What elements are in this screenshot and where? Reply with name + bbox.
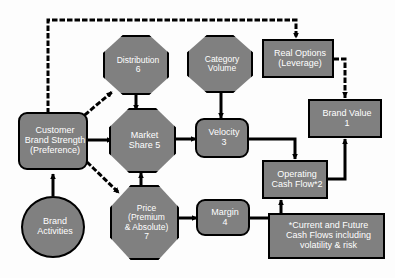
node-price-label: Price(Premium& Absolute)7 <box>110 204 179 241</box>
node-real-options-label: Real Options(Leverage) <box>264 49 332 68</box>
node-brand-value[interactable]: Brand Value1 <box>308 99 382 138</box>
node-brand-activities-label: BrandActivities <box>23 217 83 236</box>
node-customer-brand-strength-label: CustomerBrand Strength(Preference) <box>20 126 86 155</box>
node-brand-value-label: Brand Value1 <box>310 109 380 128</box>
connector-real-options-to-brand-value <box>335 59 345 97</box>
node-distribution-label: Distribution6 <box>103 56 169 74</box>
diagram-canvas: CustomerBrand Strength(Preference) Brand… <box>0 0 395 278</box>
node-footnote: *Current and FutureCash Flows includingv… <box>268 213 385 259</box>
node-price[interactable]: Price(Premium& Absolute)7 <box>110 185 179 260</box>
node-velocity[interactable]: Velocity3 <box>195 118 249 158</box>
node-distribution[interactable]: Distribution6 <box>103 35 169 95</box>
node-operating-cash-flow[interactable]: OperatingCash Flow*2 <box>262 160 328 199</box>
node-footnote-label: *Current and FutureCash Flows includingv… <box>270 221 383 250</box>
connector-customer-brand-strength-to-real-options <box>48 20 296 112</box>
node-operating-cash-flow-label: OperatingCash Flow*2 <box>264 170 326 189</box>
node-real-options[interactable]: Real Options(Leverage) <box>262 39 334 78</box>
connector-velocity-to-operating-cash-flow <box>248 139 295 159</box>
node-category-volume-label: CategoryVolume <box>187 55 253 73</box>
node-market-share-label: MarketShare 5 <box>109 131 176 150</box>
node-brand-activities[interactable]: BrandActivities <box>21 196 85 258</box>
connector-operating-cash-flow-to-brand-value <box>327 139 345 179</box>
node-velocity-label: Velocity3 <box>197 128 247 147</box>
node-margin[interactable]: Margin4 <box>196 199 250 236</box>
node-customer-brand-strength[interactable]: CustomerBrand Strength(Preference) <box>18 112 88 170</box>
node-category-volume[interactable]: CategoryVolume <box>187 35 253 93</box>
node-market-share[interactable]: MarketShare 5 <box>109 108 176 173</box>
node-margin-label: Margin4 <box>198 208 248 227</box>
